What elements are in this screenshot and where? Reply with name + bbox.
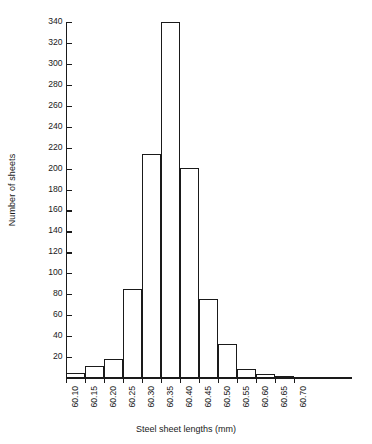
x-axis-title: Steel sheet lengths (mm) xyxy=(0,424,372,434)
x-axis-tick xyxy=(66,378,67,383)
histogram-bar xyxy=(66,373,85,378)
x-axis-tick-label: 60.60 xyxy=(260,386,270,408)
histogram-bar xyxy=(123,289,142,378)
y-axis-tick: 160 xyxy=(66,210,72,211)
x-axis-tick xyxy=(180,378,181,383)
y-axis-tick: 260 xyxy=(66,106,72,107)
y-axis-tick: 300 xyxy=(66,64,72,65)
y-axis-tick-label: 200 xyxy=(33,163,63,173)
y-axis-title-text: Number of sheets xyxy=(7,154,17,227)
histogram-bar xyxy=(104,359,123,378)
x-axis-tick xyxy=(104,378,105,383)
x-axis-tick-label: 60.20 xyxy=(108,386,118,408)
histogram-bar xyxy=(237,369,256,378)
x-axis-tick-label: 60.10 xyxy=(70,386,80,408)
y-axis-tick-label: 240 xyxy=(33,121,63,131)
x-axis-tick-label: 60.70 xyxy=(298,386,308,408)
x-axis-tick xyxy=(123,378,124,383)
x-axis-tick-label: 60.30 xyxy=(146,386,156,408)
x-axis-tick xyxy=(85,378,86,383)
x-axis-tick-label: 60.35 xyxy=(165,386,175,408)
y-axis-tick-label: 340 xyxy=(33,16,63,26)
y-axis-tick: 220 xyxy=(66,148,72,149)
y-axis-tick-label: 320 xyxy=(33,37,63,47)
y-axis-tick: 340 xyxy=(66,22,72,23)
x-axis-tick-label: 60.55 xyxy=(241,386,251,408)
histogram-bar xyxy=(142,154,161,378)
y-axis-tick: 200 xyxy=(66,169,72,170)
y-axis-tick: 180 xyxy=(66,190,72,191)
x-axis-tick xyxy=(275,378,276,383)
x-axis-tick xyxy=(294,378,295,383)
x-axis-tick xyxy=(199,378,200,383)
y-axis-tick-label: 80 xyxy=(33,288,63,298)
histogram-bar xyxy=(199,299,218,378)
y-axis-tick: 20 xyxy=(66,357,72,358)
x-axis-tick xyxy=(142,378,143,383)
y-axis-tick-label: 40 xyxy=(33,330,63,340)
y-axis-tick: 120 xyxy=(66,252,72,253)
y-axis-tick-label: 120 xyxy=(33,246,63,256)
x-axis-tick xyxy=(237,378,238,383)
histogram-bar xyxy=(161,22,180,378)
y-axis-tick: 40 xyxy=(66,336,72,337)
y-axis-tick-label: 300 xyxy=(33,58,63,68)
histogram-bar xyxy=(85,366,104,378)
y-axis-tick: 80 xyxy=(66,294,72,295)
y-axis-tick-label: 140 xyxy=(33,225,63,235)
y-axis-tick: 240 xyxy=(66,127,72,128)
x-axis-tick-label: 60.65 xyxy=(279,386,289,408)
histogram-bar xyxy=(180,168,199,378)
y-axis-tick: 140 xyxy=(66,231,72,232)
x-axis-tick xyxy=(218,378,219,383)
y-axis-tick: 280 xyxy=(66,85,72,86)
y-axis-tick-label: 60 xyxy=(33,309,63,319)
x-axis-tick-label: 60.50 xyxy=(222,386,232,408)
y-axis-tick: 100 xyxy=(66,273,72,274)
x-axis-title-text: Steel sheet lengths (mm) xyxy=(136,424,236,434)
y-axis-tick-label: 20 xyxy=(33,351,63,361)
x-axis-tick xyxy=(161,378,162,383)
y-axis-tick: 60 xyxy=(66,315,72,316)
histogram-bar xyxy=(218,344,237,378)
y-axis-tick-label: 220 xyxy=(33,142,63,152)
histogram-bar xyxy=(256,374,275,378)
histogram-bar xyxy=(275,376,294,378)
y-axis-tick-label: 280 xyxy=(33,79,63,89)
x-axis-tick-label: 60.40 xyxy=(184,386,194,408)
y-axis-title: Number of sheets xyxy=(0,0,24,380)
x-axis-tick-label: 60.15 xyxy=(89,386,99,408)
y-axis-line xyxy=(66,22,67,378)
y-axis-tick: 320 xyxy=(66,43,72,44)
y-axis-tick-label: 100 xyxy=(33,267,63,277)
x-axis-tick-label: 60.45 xyxy=(203,386,213,408)
histogram-chart: Number of sheets 20406080100120140160180… xyxy=(0,0,372,444)
y-axis-tick-label: 260 xyxy=(33,100,63,110)
x-axis-tick xyxy=(256,378,257,383)
x-axis-tick-label: 60.25 xyxy=(127,386,137,408)
y-axis-tick-label: 160 xyxy=(33,204,63,214)
y-axis-tick-label: 180 xyxy=(33,184,63,194)
plot-area: 2040608010012014016018020022024026028032… xyxy=(66,14,352,378)
